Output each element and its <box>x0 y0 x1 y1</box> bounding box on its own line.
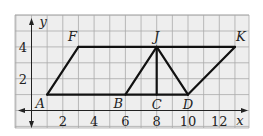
point-label-A: A <box>34 96 44 111</box>
x-tick-label: 6 <box>121 114 129 129</box>
point-label-D: D <box>182 97 194 112</box>
point-label-C: C <box>152 97 162 112</box>
y-tick-label: 2 <box>19 72 27 87</box>
y-tick-label: 4 <box>19 40 27 55</box>
x-tick-label: 2 <box>59 114 67 129</box>
x-axis-label: x <box>236 113 244 128</box>
x-tick-label: 10 <box>180 114 197 129</box>
point-label-B: B <box>113 96 124 111</box>
point-label-F: F <box>67 29 78 44</box>
grid-background <box>15 15 249 128</box>
x-tick-label: 8 <box>153 114 161 129</box>
x-tick-label: 12 <box>211 114 228 129</box>
coordinate-grid-figure: xy 2468101224 AFJKBCD <box>0 0 263 136</box>
x-tick-label: 4 <box>90 114 98 129</box>
y-axis-label: y <box>39 14 48 29</box>
point-label-K: K <box>235 29 247 44</box>
